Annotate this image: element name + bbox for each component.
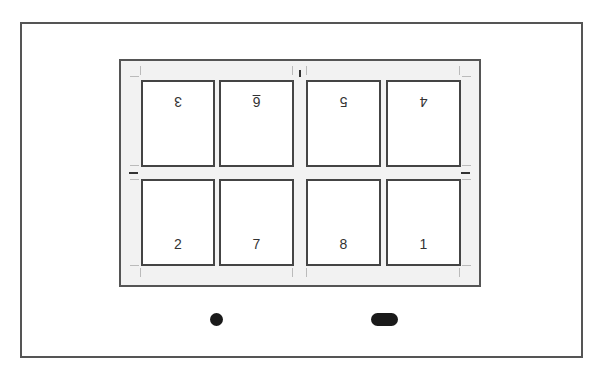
crop-mark [130,179,139,180]
pill-indicator-icon [371,313,398,326]
page-card: 8 [306,179,381,266]
crop-mark [459,268,460,277]
page-number: 3 [143,94,213,110]
page-card: 7 [219,179,294,266]
crop-mark [130,165,139,166]
page-number: 5 [308,94,379,110]
crop-mark [140,66,141,75]
page-number: 2 [143,236,213,252]
page-card: 2 [141,179,215,266]
fold-mark-center-top [299,70,301,77]
crop-mark [462,265,471,266]
crop-mark [292,66,293,75]
crop-mark [130,76,139,77]
page-card: 6 [219,80,294,167]
page-number: 4 [388,94,459,110]
circle-indicator-icon [210,313,223,326]
page-card: 1 [386,179,461,266]
fold-mark-left [129,172,138,174]
crop-mark [462,179,471,180]
crop-mark [140,268,141,277]
page-card: 4 [386,80,461,167]
fold-mark-right [461,172,470,174]
crop-mark [130,265,139,266]
crop-mark [462,165,471,166]
page-number: 7 [221,236,292,252]
page-number: 1 [388,236,459,252]
page-card: 5 [306,80,381,167]
crop-mark [462,76,471,77]
page-card: 3 [141,80,215,167]
page-number: 6 [221,94,292,110]
crop-mark [306,268,307,277]
crop-mark [306,66,307,75]
crop-mark [292,268,293,277]
crop-mark [459,66,460,75]
page-number: 8 [308,236,379,252]
